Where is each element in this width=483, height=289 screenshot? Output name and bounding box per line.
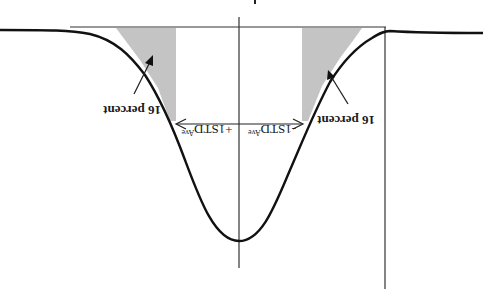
right-tail-label: 16 percent [316, 113, 375, 128]
cropped-title-mark [254, 0, 256, 4]
left-tail-label: 16 percent [102, 103, 161, 118]
right-pointer-arrow [332, 78, 348, 104]
distribution-curve [0, 30, 483, 241]
normal-distribution-figure: 16 percent 16 percent +1STDAve -1STDAve [0, 0, 483, 289]
